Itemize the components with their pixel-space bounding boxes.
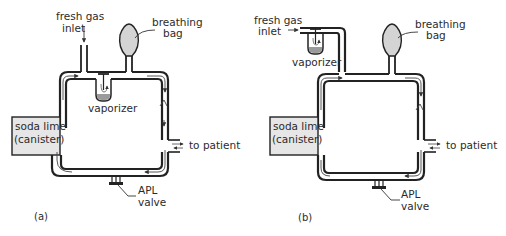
label-inlet-a: inlet bbox=[62, 22, 85, 34]
breathing-bag-icon-a bbox=[120, 24, 139, 56]
label-apl-b: APL bbox=[401, 188, 421, 200]
apl-valve-icon-a bbox=[109, 176, 136, 196]
breathing-bag-icon-b bbox=[383, 24, 402, 56]
outer-pipe-a bbox=[52, 72, 168, 176]
label-bag-b: bag bbox=[426, 29, 446, 41]
breathing-circuit-diagram: fresh gas inlet breathing bag vaporizer … bbox=[0, 0, 506, 236]
caption-b: (b) bbox=[298, 212, 312, 223]
caption-a: (a) bbox=[34, 211, 48, 222]
inner-pipe-b bbox=[324, 81, 418, 173]
label-to-patient-a: to patient bbox=[189, 139, 240, 151]
label-soda-lime-a: soda lime bbox=[15, 120, 66, 132]
apl-valve-icon-b bbox=[372, 180, 400, 200]
label-soda-lime-b: soda lime bbox=[273, 120, 324, 132]
vaporizer-icon-a bbox=[96, 74, 111, 101]
label-valve-a: valve bbox=[138, 196, 166, 208]
label-canister-a: (canister) bbox=[14, 133, 64, 145]
label-bag-a: bag bbox=[163, 27, 183, 39]
label-apl-a: APL bbox=[138, 184, 158, 196]
label-fresh-gas-a: fresh gas bbox=[56, 10, 104, 22]
panel-b bbox=[270, 24, 440, 200]
label-valve-b: valve bbox=[401, 200, 429, 212]
label-inlet-b: inlet bbox=[258, 25, 281, 37]
outer-pipe-b bbox=[318, 74, 424, 180]
label-vaporizer-b: vaporizer bbox=[292, 56, 342, 68]
label-canister-b: (canister) bbox=[272, 133, 322, 145]
label-to-patient-b: to patient bbox=[446, 139, 497, 151]
label-vaporizer-a: vaporizer bbox=[88, 102, 138, 114]
